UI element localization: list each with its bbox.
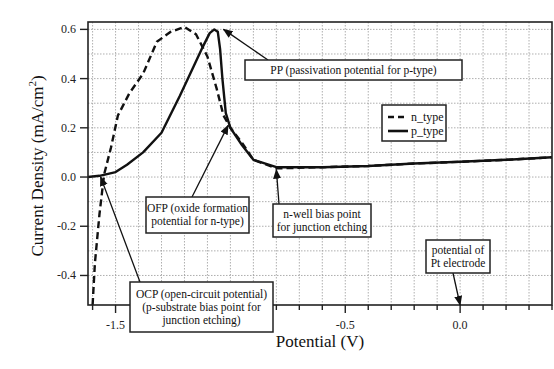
annotation-pp: PP (passivation potential for p-type) (224, 29, 462, 80)
y-tick-label: -0.4 (57, 268, 76, 282)
legend: n_typep_type (382, 105, 446, 141)
y-tick-label: 0.6 (61, 22, 76, 36)
x-tick-label: -0.5 (336, 318, 355, 332)
annotations: PP (passivation potential for p-type)OFP… (101, 29, 490, 332)
legend-label: p_type (411, 124, 444, 138)
annotation-text: Pt electrode (431, 257, 486, 269)
annotation-text: n-well bias point (283, 208, 361, 221)
potential-current-chart: -1.5-1.0-0.50.00.60.40.20.0-0.2-0.4 PP (… (0, 0, 554, 369)
annotation-pt: potential ofPt electrode (426, 240, 490, 305)
annotation-nwell: n-well bias pointfor junction etching (273, 170, 371, 237)
annotation-text: (p-substrate bias point for (142, 301, 261, 314)
y-tick-label: -0.2 (57, 219, 76, 233)
y-tick-label: 0.4 (61, 72, 76, 86)
annotation-text: for junction etching (277, 221, 368, 234)
annotation-text: PP (passivation potential for p-type) (270, 64, 436, 77)
annotation-text: OFP (oxide formation (147, 202, 248, 215)
x-tick-label: 0.0 (453, 318, 468, 332)
annotation-arrow (192, 125, 228, 197)
y-tick-label: 0.2 (61, 121, 76, 135)
annotation-arrow (101, 177, 140, 282)
x-axis-title: Potential (V) (276, 332, 364, 351)
annotation-text: OCP (open-circuit potential) (136, 288, 267, 301)
annotation-arrow (453, 273, 460, 305)
annotation-arrow (276, 170, 279, 204)
annotation-text: potential for n-type) (151, 215, 244, 228)
y-axis-title: Current Density (mA/cm2) (26, 75, 47, 256)
legend-label: n_type (411, 110, 444, 124)
x-tick-label: -1.5 (106, 318, 125, 332)
annotation-text: potential of (432, 244, 485, 257)
annotation-text: junction etching) (161, 314, 240, 327)
y-tick-label: 0.0 (61, 170, 76, 184)
